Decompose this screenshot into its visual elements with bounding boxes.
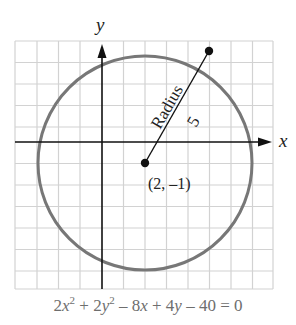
y-axis: [98, 44, 107, 289]
eq-var: y: [174, 296, 182, 315]
center-point: [141, 159, 149, 167]
center-coordinate-label: (2, –1): [148, 175, 191, 193]
eq-part: + 4: [148, 296, 175, 315]
x-axis-arrow-icon: [258, 138, 272, 147]
eq-part: – 40 = 0: [182, 296, 243, 315]
eq-var: x: [140, 296, 148, 315]
eq-part: – 8: [115, 296, 141, 315]
eq-var: x: [62, 296, 70, 315]
circle-equation: 2x2 + 2y2 – 8x + 4y – 40 = 0: [0, 294, 296, 316]
y-axis-label: y: [96, 14, 104, 36]
x-axis-label: x: [279, 130, 287, 152]
radius-endpoint: [205, 47, 213, 55]
eq-part: 2: [54, 296, 63, 315]
x-axis: [15, 138, 272, 147]
radius-label: Radius: [147, 82, 187, 132]
eq-part: + 2: [75, 296, 102, 315]
coordinate-plane: Radius 5: [0, 0, 296, 325]
y-axis-arrow-icon: [98, 44, 107, 58]
